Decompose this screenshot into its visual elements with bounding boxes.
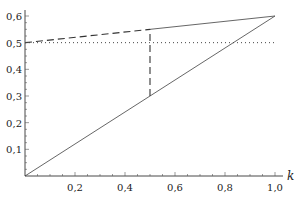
- series-upper-line-dashed: [25, 29, 150, 42]
- y-tick-label: 0,6: [6, 11, 22, 22]
- x-tick-label: 0,2: [67, 182, 83, 193]
- line-chart: 0,20,40,60,81,00,10,20,30,40,50,6k: [0, 0, 297, 198]
- x-tick-label: 1,0: [267, 182, 283, 193]
- plot-area: [25, 16, 275, 176]
- x-tick-label: 0,8: [217, 182, 233, 193]
- y-tick-label: 0,1: [6, 144, 22, 155]
- series-upper-line-solid: [150, 16, 275, 29]
- x-tick-label: 0,6: [167, 182, 183, 193]
- x-axis-label: k: [287, 169, 294, 183]
- y-tick-label: 0,3: [6, 91, 22, 102]
- y-tick-label: 0,5: [6, 38, 22, 49]
- y-tick-label: 0,4: [6, 64, 22, 75]
- x-tick-label: 0,4: [117, 182, 133, 193]
- y-tick-label: 0,2: [6, 118, 22, 129]
